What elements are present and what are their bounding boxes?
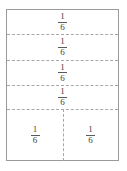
fraction-denominator: 6: [58, 48, 67, 58]
fraction-label: 1 6: [58, 12, 67, 32]
fraction-label: 1 6: [58, 63, 67, 83]
fraction-denominator: 6: [86, 136, 95, 146]
cell-row3: 1 6: [7, 60, 118, 85]
fraction-numerator: 1: [58, 12, 67, 22]
fraction-denominator: 6: [58, 98, 67, 108]
cell-row4: 1 6: [7, 85, 118, 109]
fraction-label: 1 6: [58, 37, 67, 57]
fraction-label: 1 6: [58, 87, 67, 107]
fraction-label: 1 6: [86, 125, 95, 145]
fraction-numerator: 1: [58, 63, 67, 73]
fraction-numerator: 1: [31, 125, 40, 135]
fraction-label: 1 6: [31, 125, 40, 145]
cell-row5-right: 1 6: [63, 109, 118, 161]
fraction-denominator: 6: [58, 73, 67, 83]
model-rectangle: 1 6 1 6 1 6 1 6: [6, 9, 119, 161]
cell-row1: 1 6: [7, 10, 118, 34]
fraction-numerator: 1: [58, 87, 67, 97]
fraction-numerator: 1: [58, 37, 67, 47]
cell-row5-left: 1 6: [7, 109, 63, 161]
fraction-denominator: 6: [58, 23, 67, 33]
fraction-numerator: 1: [86, 125, 95, 135]
cell-row2: 1 6: [7, 34, 118, 60]
fraction-area-model-figure: 1 6 1 6 1 6 1 6: [0, 0, 127, 171]
fraction-denominator: 6: [31, 136, 40, 146]
